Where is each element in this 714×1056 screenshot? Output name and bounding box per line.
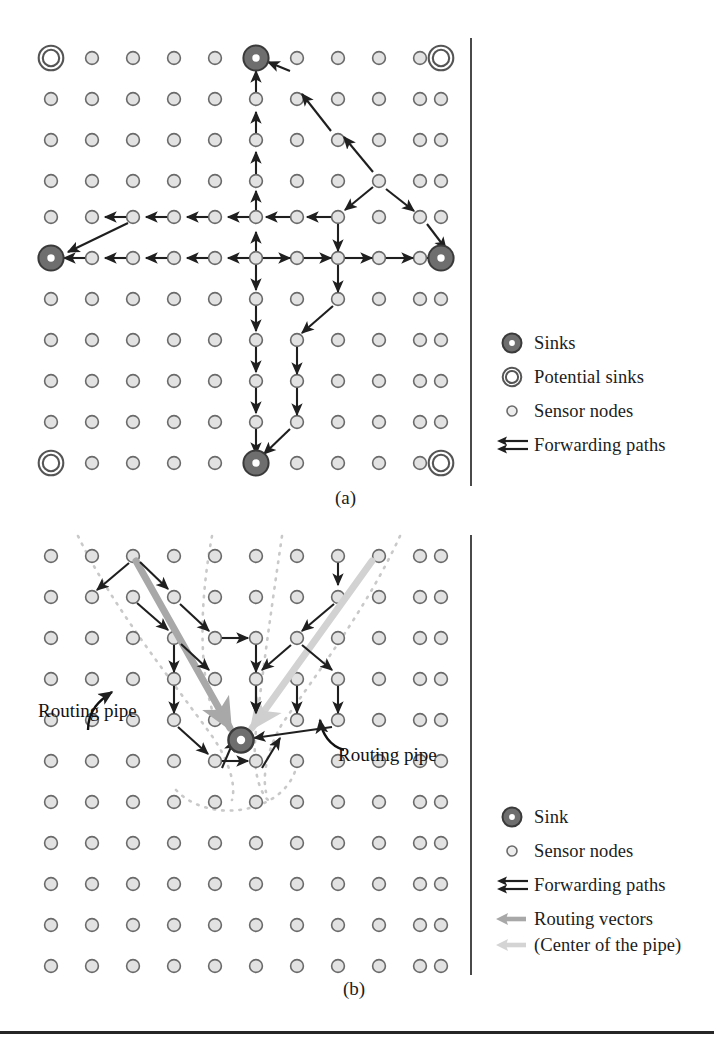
legend-item-forwarding-paths: Forwarding paths [490, 428, 666, 462]
potential-sink-icon [490, 365, 534, 389]
bottom-rule [0, 1031, 714, 1034]
legend-label-forwarding-paths: Forwarding paths [534, 435, 666, 456]
legend-item-sink: Sink [490, 800, 681, 834]
routing-vector-light-icon [490, 933, 534, 957]
legend-item-sensor-nodes: Sensor nodes [490, 834, 681, 868]
potential-sinks-a [39, 46, 454, 476]
legend-label-routing-vectors: Routing vectors [534, 909, 653, 930]
legend-label-center-of-pipe: (Center of the pipe) [534, 935, 681, 956]
forwarding-path-icon [490, 873, 534, 897]
routing-vector-icon [490, 907, 534, 931]
legend-item-center-of-pipe: (Center of the pipe) [490, 928, 681, 962]
panel-a-diagram [0, 0, 470, 500]
legend-item-sinks: Sinks [490, 326, 666, 360]
legend-label-sensor-nodes: Sensor nodes [534, 841, 633, 862]
legend-item-potential-sinks: Potential sinks [490, 360, 666, 394]
panel-a-svg [0, 0, 470, 500]
routing-pipe-label-left: Routing pipe [38, 700, 137, 722]
sink-icon [490, 331, 534, 355]
legend-label-sensor-nodes: Sensor nodes [534, 401, 633, 422]
legend-label-potential-sinks: Potential sinks [534, 367, 644, 388]
routing-vectors-center-b [252, 561, 372, 728]
sensor-node-icon [490, 399, 534, 423]
sensor-node-grid-a [45, 52, 448, 470]
forwarding-path-icon [490, 433, 534, 457]
legend-item-forwarding-paths: Forwarding paths [490, 868, 681, 902]
legend-panel-a: Sinks Potential sinks Sensor nodes [490, 326, 666, 462]
panel-a-divider [470, 38, 472, 486]
sink-b [228, 727, 253, 752]
legend-label-sink: Sink [534, 807, 568, 828]
panel-b-divider [470, 535, 472, 975]
legend-label-sinks: Sinks [534, 333, 576, 354]
legend-label-forwarding-paths: Forwarding paths [534, 875, 666, 896]
sinks-a [38, 45, 453, 475]
sink-icon [490, 805, 534, 829]
sensor-node-icon [490, 839, 534, 863]
routing-pipe-boundaries [78, 536, 400, 811]
legend-item-sensor-nodes: Sensor nodes [490, 394, 666, 428]
panel-b-caption: (b) [343, 978, 365, 1000]
legend-panel-b: Sink Sensor nodes Forwarding paths [490, 800, 681, 962]
routing-pipe-label-right: Routing pipe [338, 744, 437, 766]
